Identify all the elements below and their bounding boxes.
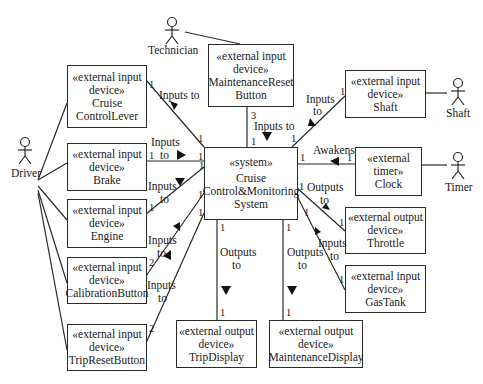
system-name: System bbox=[234, 198, 268, 211]
assoc-label-tripdisp: Outputs bbox=[220, 246, 256, 259]
multiplicity: 2 bbox=[149, 323, 154, 334]
stereotype: device» bbox=[89, 274, 125, 287]
block-name: TripResetButton bbox=[69, 354, 145, 367]
block-name: Cruise bbox=[92, 97, 122, 110]
system-block[interactable]: «system» Cruise Control&Monitoring Syste… bbox=[204, 147, 298, 220]
throttle-block[interactable]: «external output device» Throttle bbox=[345, 207, 426, 254]
multiplicity: 1 bbox=[220, 307, 225, 318]
stereotype: device» bbox=[89, 341, 125, 354]
multiplicity: 1 bbox=[291, 133, 296, 144]
multiplicity: 1 bbox=[286, 222, 291, 233]
cruise-control-lever-block[interactable]: «external input device» Cruise ControlLe… bbox=[67, 65, 147, 128]
maintenance-display-block[interactable]: «external output device» MaintenanceDisp… bbox=[269, 320, 363, 368]
arrow-calib bbox=[173, 222, 180, 231]
multiplicity: 3 bbox=[251, 110, 256, 121]
trip-reset-button-block[interactable]: «external input device» TripResetButton bbox=[67, 324, 147, 371]
driver-actor-icon bbox=[18, 138, 32, 165]
block-name: Throttle bbox=[367, 237, 404, 250]
stereotype: «external output bbox=[348, 211, 423, 224]
system-stereotype: «system» bbox=[229, 156, 272, 169]
arrow-gastank bbox=[315, 227, 321, 235]
multiplicity: 1 bbox=[339, 274, 344, 285]
multiplicity: 1 bbox=[251, 136, 256, 147]
assoc-label-calib: Inputs bbox=[148, 234, 177, 247]
system-name: Control&Monitoring bbox=[203, 185, 299, 198]
multiplicity: 1 bbox=[220, 222, 225, 233]
assoc-label-tripreset: Inputs bbox=[147, 279, 176, 292]
engine-block[interactable]: «external input device» Engine bbox=[67, 199, 147, 248]
stereotype: «external input bbox=[351, 75, 420, 88]
block-name: Brake bbox=[93, 174, 120, 187]
block-name: Shaft bbox=[373, 101, 397, 114]
stereotype: device» bbox=[199, 338, 235, 351]
multiplicity: 1 bbox=[340, 86, 345, 97]
assoc-label-maintdisp: Outputs bbox=[287, 246, 323, 259]
multiplicity: 1 bbox=[149, 79, 154, 90]
stereotype: «external input bbox=[72, 328, 141, 341]
multiplicity: 1 bbox=[299, 181, 304, 192]
block-name: CalibrationButton bbox=[65, 287, 148, 300]
block-name: MaintenanceReset bbox=[209, 76, 294, 89]
block-name: Button bbox=[235, 89, 266, 102]
timer-actor-label: Timer bbox=[445, 181, 473, 193]
block-name: TripDisplay bbox=[189, 351, 244, 364]
block-name: Clock bbox=[375, 178, 402, 191]
arrow-maintdisp bbox=[287, 286, 297, 295]
stereotype: device» bbox=[368, 224, 404, 237]
stereotype: device» bbox=[89, 84, 125, 97]
multiplicity: 1 bbox=[286, 307, 291, 318]
assoc-label-engine: to bbox=[160, 193, 169, 206]
block-name: ControlLever bbox=[76, 110, 138, 123]
assoc-label-brake: to bbox=[160, 149, 169, 162]
stereotype: device» bbox=[89, 161, 125, 174]
stereotype: device» bbox=[368, 283, 404, 296]
stereotype: «external output bbox=[278, 325, 353, 338]
assoc-label-calib: to bbox=[157, 247, 166, 260]
clock-block[interactable]: «external timer» Clock bbox=[355, 147, 422, 196]
arrow-shaft bbox=[308, 118, 316, 126]
gas-tank-block[interactable]: «external input device» GasTank bbox=[345, 265, 426, 313]
calibration-button-block[interactable]: «external input device» CalibrationButto… bbox=[67, 257, 147, 304]
arrow-maint-reset bbox=[262, 132, 272, 141]
brake-block[interactable]: «external input device» Brake bbox=[67, 143, 147, 191]
shaft-actor-label: Shaft bbox=[446, 107, 470, 119]
stereotype: timer» bbox=[373, 165, 403, 178]
assoc-label-gastank: to bbox=[330, 250, 339, 263]
stereotype: «external output bbox=[179, 325, 254, 338]
driver-actor-label: Driver bbox=[11, 167, 41, 179]
multiplicity: 1 bbox=[199, 160, 204, 171]
assoc-label-brake: Inputs bbox=[151, 136, 180, 149]
assoc-label-engine: Inputs bbox=[148, 180, 177, 193]
assoc-label-throttle: Outputs bbox=[307, 181, 343, 194]
technician-actor-label: Technician bbox=[148, 44, 198, 56]
multiplicity: 1 bbox=[149, 150, 154, 161]
arrow-tripdisp bbox=[221, 286, 231, 295]
block-name: GasTank bbox=[365, 296, 406, 309]
system-name: Cruise bbox=[236, 172, 266, 185]
arrow-clock bbox=[330, 157, 339, 166]
stereotype: «external input bbox=[351, 270, 420, 283]
multiplicity: 1 bbox=[300, 152, 305, 163]
stereotype: device» bbox=[298, 338, 334, 351]
stereotype: «external input bbox=[72, 204, 141, 217]
assoc-label-tripreset: to bbox=[158, 292, 167, 305]
stereotype: «external input bbox=[216, 50, 285, 63]
stereotype: «external input bbox=[72, 148, 141, 161]
stereotype: device» bbox=[368, 88, 404, 101]
maintenance-reset-button-block[interactable]: «external input device» MaintenanceReset… bbox=[208, 44, 294, 107]
trip-display-block[interactable]: «external output device» TripDisplay bbox=[176, 320, 257, 368]
shaft-block[interactable]: «external input device» Shaft bbox=[345, 70, 426, 118]
assoc-label-maintdisp: to bbox=[298, 259, 307, 272]
multiplicity: 1 bbox=[198, 189, 203, 200]
technician-actor-icon bbox=[165, 18, 179, 45]
shaft-actor-icon bbox=[451, 79, 465, 106]
assoc-label-cruise-lever: Inputs to bbox=[159, 89, 200, 102]
assoc-label-shaft: to bbox=[313, 105, 322, 118]
multiplicity: 1 bbox=[198, 133, 203, 144]
assoc-label-tripdisp: to bbox=[232, 259, 241, 272]
block-name: Engine bbox=[91, 230, 124, 243]
multiplicity: 2 bbox=[149, 257, 154, 268]
stereotype: «external bbox=[367, 152, 410, 165]
multiplicity: 1 bbox=[339, 217, 344, 228]
multiplicity: 1 bbox=[198, 207, 203, 218]
